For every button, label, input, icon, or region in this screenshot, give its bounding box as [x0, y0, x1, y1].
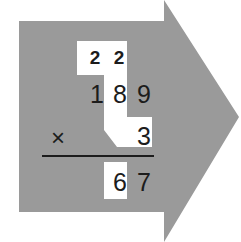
multiplicand-ones: 9	[135, 82, 153, 107]
multiplicand-tens: 8	[111, 82, 129, 107]
arrow-shape	[0, 0, 241, 242]
product-tens: 6	[111, 170, 129, 195]
multiply-operator: ×	[48, 126, 68, 150]
multiplicand-hundreds: 1	[88, 82, 106, 107]
multiplier-digit: 3	[135, 124, 153, 149]
carry-digit-tens: 2	[87, 48, 103, 67]
carry-digit-hundreds: 2	[111, 48, 127, 67]
product-rule	[42, 155, 154, 157]
multiplication-arrow-diagram: 2 2 1 8 9 × 3 6 7	[0, 0, 241, 242]
product-ones: 7	[135, 170, 153, 195]
